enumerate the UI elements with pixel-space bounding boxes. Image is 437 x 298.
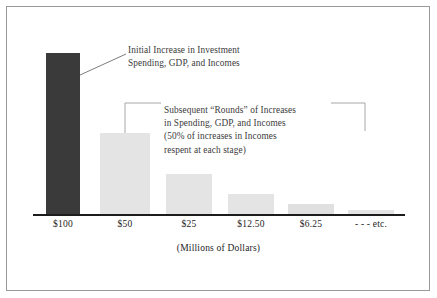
callout-initial-increase: Initial Increase in Investment Spending,… [128,44,240,70]
callout2-line1: Subsequent “Rounds” of Increases [164,104,296,117]
bar-0 [46,53,80,215]
callout1-line1: Initial Increase in Investment [128,44,240,57]
callout2-line4: respent at each stage) [164,144,296,157]
bar-3 [228,194,274,215]
x-axis-caption: (Millions of Dollars) [0,243,437,253]
callout1-line2: Spending, GDP, and Incomes [128,57,240,70]
x-axis-line [33,214,405,216]
bar-2 [166,174,212,215]
callout2-line3: (50% of increases in Incomes [164,130,296,143]
callout2-bracket-left [125,103,161,133]
callout1-leader-line [80,54,126,75]
callout2-line2: in Spending, GDP, and Incomes [164,117,296,130]
callout2-bracket-right [331,103,365,131]
chart-plot-area: $100$50$25$12.50$6.25- - - etc. (Million… [0,0,437,298]
tick-label-5: - - - etc. [331,219,411,229]
figure-container: $100$50$25$12.50$6.25- - - etc. (Million… [0,0,437,298]
bar-1 [100,133,150,215]
callout-subsequent-rounds: Subsequent “Rounds” of Increases in Spen… [164,104,296,157]
